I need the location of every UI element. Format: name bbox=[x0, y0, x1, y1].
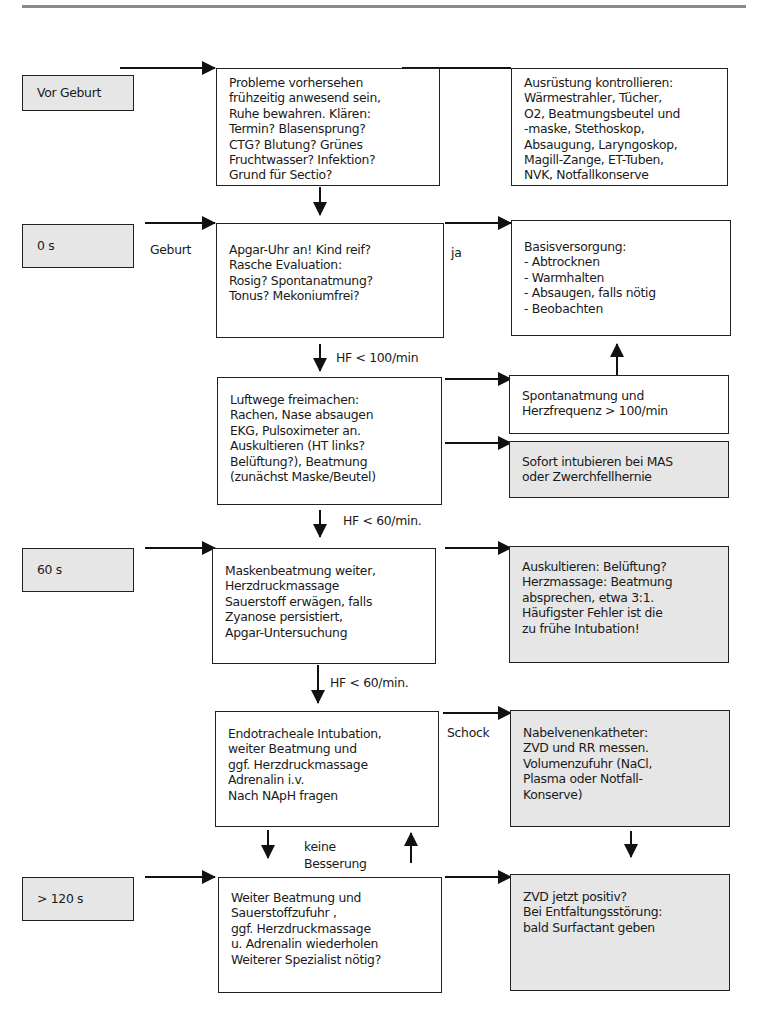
label-keine: keine bbox=[304, 839, 336, 854]
box-luftwege-freimachen: Luftwege freimachen: Rachen, Nase absaug… bbox=[217, 377, 442, 505]
top-rule bbox=[22, 5, 746, 8]
box-probleme-vorhersehen: Probleme vorhersehen frühzeitig anwesend… bbox=[216, 68, 440, 186]
box-basisversorgung: Basisversorgung: - Abtrocknen - Warmhalt… bbox=[511, 220, 731, 336]
box-zvd-positiv: ZVD jetzt positiv? Bei Entfaltungsstörun… bbox=[510, 874, 730, 991]
box-nabelvenenkatheter: Nabelvenenkatheter: ZVD und RR messen. V… bbox=[510, 710, 730, 827]
box-ausruestung-kontrollieren: Ausrüstung kontrollieren: Wärmestrahler,… bbox=[511, 68, 728, 186]
box-endotracheale-intubation: Endotracheale Intubation, weiter Beatmun… bbox=[215, 711, 439, 827]
stage-vor-geburt: Vor Geburt bbox=[22, 75, 134, 111]
label-ja: ja bbox=[451, 245, 461, 260]
label-geburt: Geburt bbox=[150, 242, 191, 257]
box-auskultieren-belueftung: Auskultieren: Belüftung? Herzmassage: Be… bbox=[509, 546, 729, 663]
label-besserung: Besserung bbox=[304, 856, 367, 871]
stage-0s: 0 s bbox=[22, 224, 134, 268]
box-maskenbeatmung: Maskenbeatmung weiter, Herzdruckmassage … bbox=[212, 548, 436, 664]
label-schock: Schock bbox=[447, 725, 489, 740]
stage-60s: 60 s bbox=[22, 548, 134, 592]
stage-label: > 120 s bbox=[37, 891, 83, 906]
stage-label: Vor Geburt bbox=[37, 85, 101, 100]
stage-label: 0 s bbox=[37, 238, 54, 253]
box-apgar-uhr: Apgar-Uhr an! Kind reif? Rasche Evaluati… bbox=[216, 223, 444, 338]
label-hf-under-60-first: HF < 60/min. bbox=[343, 513, 421, 528]
box-sofort-intubieren: Sofort intubieren bei MAS oder Zwerchfel… bbox=[509, 441, 729, 498]
label-hf-under-60-second: HF < 60/min. bbox=[330, 675, 408, 690]
box-spontanatmung: Spontanatmung und Herzfrequenz > 100/min bbox=[509, 375, 729, 434]
label-hf-under-100: HF < 100/min bbox=[336, 350, 418, 365]
stage-label: 60 s bbox=[37, 562, 62, 577]
box-weiter-beatmung: Weiter Beatmung und Sauerstoffzufuhr , g… bbox=[218, 877, 442, 993]
stage-120s: > 120 s bbox=[22, 877, 134, 921]
